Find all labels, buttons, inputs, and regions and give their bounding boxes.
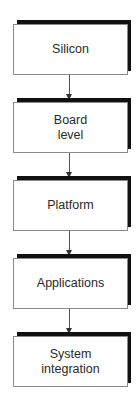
arrow-board-to-platform [69,153,70,173]
node-silicon: Silicon [13,24,128,75]
arrow-applications-to-system [69,309,70,329]
node-label: Board level [54,113,87,143]
node-platform: Platform [13,180,128,231]
node-board-level: Board level [13,102,128,153]
node-applications: Applications [13,258,128,309]
node-system-integration: System integration [13,336,128,387]
node-label: Applications [37,276,104,291]
node-label: System integration [41,347,99,377]
arrow-platform-to-applications [69,231,70,251]
arrow-silicon-to-board [69,75,70,95]
node-label: Platform [47,198,94,213]
node-label: Silicon [52,42,89,57]
